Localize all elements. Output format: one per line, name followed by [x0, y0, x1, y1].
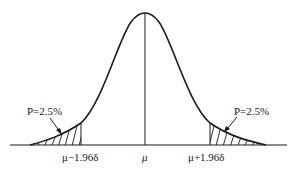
right-bound-label: μ+1.96δ: [188, 151, 225, 163]
right-probability-label: P=2.5%: [234, 105, 269, 117]
right-arrow-icon: [224, 117, 237, 132]
mean-label: μ: [141, 151, 148, 163]
normal-distribution-diagram: P=2.5% P=2.5% μ−1.96δ μ μ+1.96δ: [0, 0, 295, 174]
left-bound-label: μ−1.96δ: [62, 151, 99, 163]
left-probability-label: P=2.5%: [27, 105, 62, 117]
left-arrow-icon: [50, 118, 62, 135]
